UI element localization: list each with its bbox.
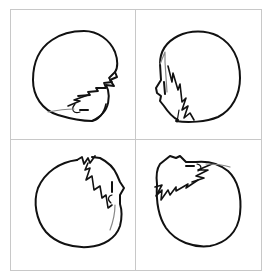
- head-panel-bottom-right: [155, 156, 241, 246]
- head-grid-illustration: [0, 0, 271, 277]
- head-panel-top-right: [156, 32, 240, 123]
- head-panel-bottom-left: [36, 156, 124, 247]
- sketch-sheet: 2x2 grid of line-drawn chibi head sketch…: [0, 0, 271, 277]
- head-panel-top-left: [33, 31, 117, 121]
- grid-lines: [10, 9, 262, 271]
